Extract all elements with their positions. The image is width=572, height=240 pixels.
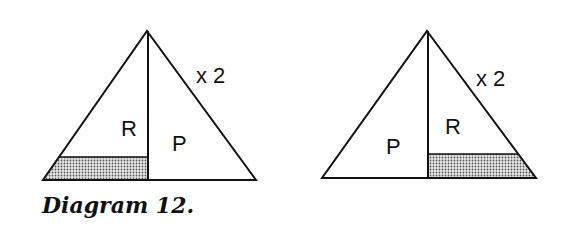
right-triangle-figure: P R x 2 xyxy=(322,31,536,178)
left-shaded-strip xyxy=(43,157,148,180)
left-multiplier-label: x 2 xyxy=(196,63,225,88)
right-label-p: P xyxy=(386,134,401,159)
left-label-p: P xyxy=(172,131,187,156)
right-multiplier-label: x 2 xyxy=(476,66,505,91)
left-triangle-figure: R P x 2 xyxy=(43,31,256,180)
left-label-r: R xyxy=(121,116,137,141)
right-label-r: R xyxy=(445,114,461,139)
diagram-caption: Diagram 12. xyxy=(42,192,194,218)
